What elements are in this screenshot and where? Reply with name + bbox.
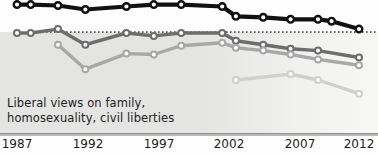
x-axis-tick-1987: 1987 (2, 137, 33, 151)
data-point-dark-gray-series-2012[interactable] (356, 55, 362, 61)
data-point-black-series-2005[interactable] (260, 14, 267, 21)
annotation-line-2: homosexuality, civil liberties (7, 111, 237, 126)
x-axis-tick-2002: 2002 (214, 137, 245, 151)
data-point-medium-gray-series-1990[interactable] (55, 42, 61, 48)
series-line-black-series (17, 5, 359, 30)
data-point-dark-gray-series-2009[interactable] (315, 48, 321, 54)
data-point-light-gray-series-2012[interactable] (356, 91, 362, 97)
data-point-medium-gray-series-2002[interactable] (219, 40, 225, 46)
data-point-dark-gray-series-2003[interactable] (233, 38, 239, 44)
data-point-medium-gray-series-2007[interactable] (288, 52, 294, 58)
data-point-black-series-1995[interactable] (123, 3, 130, 10)
series-layer (14, 1, 363, 96)
data-point-dark-gray-series-1988[interactable] (28, 30, 34, 36)
data-point-medium-gray-series-1992[interactable] (82, 66, 88, 72)
data-point-black-series-1997[interactable] (151, 1, 158, 8)
x-axis-tick-2007: 2007 (285, 137, 316, 151)
data-point-black-series-2012[interactable] (356, 26, 363, 33)
data-point-medium-gray-series-2012[interactable] (356, 62, 362, 68)
x-axis-labels: 198719921997200220072012 (0, 137, 378, 155)
series-line-medium-gray-series (58, 43, 359, 69)
data-point-black-series-2007[interactable] (287, 16, 294, 23)
data-point-light-gray-series-2009[interactable] (315, 77, 321, 83)
series-line-light-gray-series (236, 74, 359, 94)
data-point-dark-gray-series-1987[interactable] (14, 30, 20, 36)
data-point-light-gray-series-2007[interactable] (288, 71, 294, 77)
chart-annotation: Liberal views on family, homosexuality, … (7, 96, 237, 125)
data-point-dark-gray-series-2002[interactable] (219, 30, 225, 36)
annotation-line-1: Liberal views on family, (7, 96, 237, 111)
x-axis-tick-1997: 1997 (144, 137, 175, 151)
data-point-medium-gray-series-1997[interactable] (151, 52, 157, 58)
data-point-black-series-1992[interactable] (82, 6, 89, 13)
x-axis-tick-1992: 1992 (73, 137, 104, 151)
data-point-dark-gray-series-1992[interactable] (82, 42, 88, 48)
data-point-dark-gray-series-1997[interactable] (151, 33, 157, 39)
data-point-medium-gray-series-1999[interactable] (178, 43, 184, 49)
data-point-black-series-2003[interactable] (233, 13, 240, 20)
data-point-dark-gray-series-1999[interactable] (178, 30, 184, 36)
data-point-black-series-1988[interactable] (27, 1, 34, 8)
data-point-medium-gray-series-1995[interactable] (123, 51, 129, 57)
data-point-black-series-1987[interactable] (14, 1, 21, 8)
data-point-medium-gray-series-2003[interactable] (233, 45, 239, 51)
data-point-black-series-2002[interactable] (219, 3, 226, 10)
chart-container: Liberal views on family, homosexuality, … (0, 0, 378, 155)
x-axis-tick-2012: 2012 (344, 137, 375, 151)
data-point-black-series-2009[interactable] (315, 16, 322, 23)
data-point-black-series-1990[interactable] (55, 2, 62, 9)
data-point-medium-gray-series-2009[interactable] (315, 56, 321, 62)
data-point-black-series-2010[interactable] (328, 18, 335, 25)
data-point-medium-gray-series-2005[interactable] (260, 48, 266, 54)
line-chart-plot (0, 0, 378, 155)
data-point-dark-gray-series-1990[interactable] (55, 26, 61, 32)
data-point-black-series-1999[interactable] (178, 1, 185, 8)
data-point-light-gray-series-2003[interactable] (233, 77, 239, 83)
x-axis-line (0, 133, 378, 136)
data-point-dark-gray-series-1995[interactable] (123, 30, 129, 36)
